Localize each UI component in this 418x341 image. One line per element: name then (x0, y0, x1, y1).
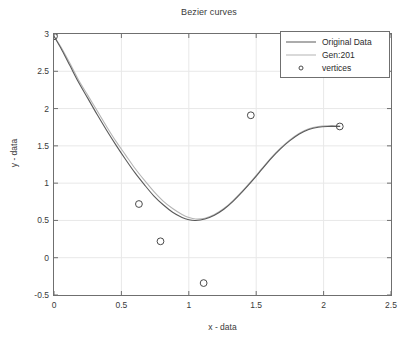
x-tick-label: 1.5 (236, 300, 276, 310)
vertex-marker (136, 201, 143, 208)
legend-item[interactable]: Original Data (284, 35, 385, 48)
legend-line-swatch (284, 36, 318, 47)
legend-label: vertices (322, 63, 351, 73)
vertex-marker (200, 280, 207, 287)
x-tick-label: 1 (169, 300, 209, 310)
vertex-marker (157, 238, 164, 245)
legend-circle-icon (299, 65, 304, 70)
legend-label: Original Data (322, 37, 372, 47)
vertex-marker (247, 112, 254, 119)
x-axis-label: x - data (53, 322, 392, 332)
legend-line-swatch (284, 49, 318, 60)
legend-line-icon (286, 54, 316, 55)
y-tick-label: 2 (9, 104, 49, 114)
chart-legend: Original DataGen:201vertices (280, 31, 390, 78)
y-tick-label: -0.5 (9, 290, 49, 300)
y-tick-label: 2.5 (9, 66, 49, 76)
x-tick-label: 2.5 (371, 300, 411, 310)
y-tick-label: 0 (9, 253, 49, 263)
x-tick-label: 2 (304, 300, 344, 310)
legend-label: Gen:201 (322, 50, 355, 60)
legend-marker-swatch (284, 62, 318, 73)
legend-line-icon (286, 41, 316, 42)
x-tick-label: 0.5 (101, 300, 141, 310)
y-tick-label: 0.5 (9, 215, 49, 225)
figure-canvas: Bezier curves y - data x - data -0.500.5… (0, 0, 418, 341)
legend-item[interactable]: Gen:201 (284, 48, 385, 61)
chart-title: Bezier curves (0, 7, 418, 17)
x-tick-label: 0 (34, 300, 74, 310)
y-tick-label: 3 (9, 29, 49, 39)
y-axis-label: y - data (9, 123, 19, 183)
legend-item[interactable]: vertices (284, 61, 385, 74)
